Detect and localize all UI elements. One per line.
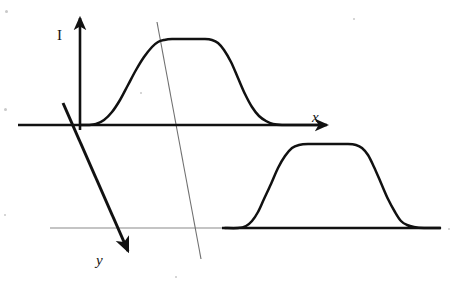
vertical-axis-label: I [57, 28, 62, 43]
scan-speck [175, 276, 177, 278]
scan-speck [4, 108, 7, 111]
horizontal-axis-label: x [312, 110, 319, 125]
oblique-guide-line [157, 22, 201, 259]
figure-vector-graphic [0, 0, 456, 292]
lower-trapezoid-profile [225, 144, 440, 228]
figure-canvas: I x y [0, 0, 456, 292]
scan-speck [140, 92, 142, 94]
scan-speck [5, 10, 8, 13]
scan-speck [4, 214, 6, 216]
scan-speck [353, 18, 355, 20]
scan-speck [448, 228, 450, 230]
upper-trapezoid-profile [80, 39, 320, 125]
oblique-axis-label: y [96, 253, 103, 268]
